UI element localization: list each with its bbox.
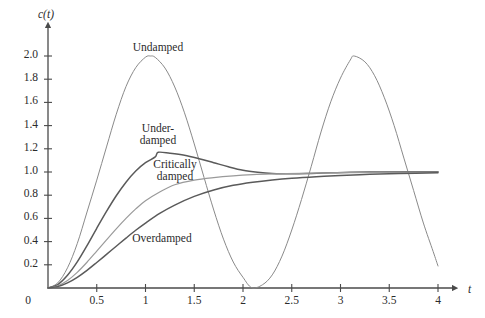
curve-label-critically-line2: damped (157, 170, 193, 182)
curve-label-critically-damped: Critically damped (140, 158, 210, 182)
x-tick-label: 3 (328, 294, 354, 306)
x-tick-label: 1.5 (181, 294, 207, 306)
y-tick-label: 2.0 (12, 48, 38, 60)
damping-response-figure: c(t) t 00.20.40.60.81.01.21.41.61.82.0 0… (0, 0, 485, 318)
axis-lines (48, 25, 455, 288)
curve-label-underdamped-line2: damped (140, 134, 176, 146)
curve-label-underdamped-line1: Under- (142, 122, 174, 134)
x-tick-label: 0.5 (84, 294, 110, 306)
curve-overdamped (48, 173, 438, 288)
y-tick-label: 0.2 (12, 257, 38, 269)
y-tick-label: 0 (15, 294, 41, 306)
x-tick-label: 2 (230, 294, 256, 306)
y-tick-label: 0.6 (12, 210, 38, 222)
curve-label-critically-line1: Critically (153, 158, 196, 170)
curve-label-undamped: Undamped (118, 41, 198, 53)
plot-canvas (0, 0, 485, 318)
curve-label-overdamped: Overdamped (117, 232, 207, 244)
y-tick-label: 1.4 (12, 118, 38, 130)
curve-critically-damped (48, 172, 438, 288)
y-tick-label: 1.8 (12, 71, 38, 83)
y-tick-label: 1.0 (12, 164, 38, 176)
x-tick-label: 1 (133, 294, 159, 306)
x-tick-label: 2.5 (279, 294, 305, 306)
data-series-group (48, 56, 438, 288)
y-tick-label: 0.8 (12, 187, 38, 199)
x-tick-label: 4 (425, 294, 451, 306)
y-tick-label: 1.6 (12, 94, 38, 106)
y-axis-title: c(t) (38, 8, 54, 20)
x-tick-label: 3.5 (376, 294, 402, 306)
y-tick-label: 1.2 (12, 141, 38, 153)
y-tick-label: 0.4 (12, 234, 38, 246)
x-axis-title: t (468, 283, 471, 295)
curve-label-underdamped: Under- damped (128, 122, 188, 146)
